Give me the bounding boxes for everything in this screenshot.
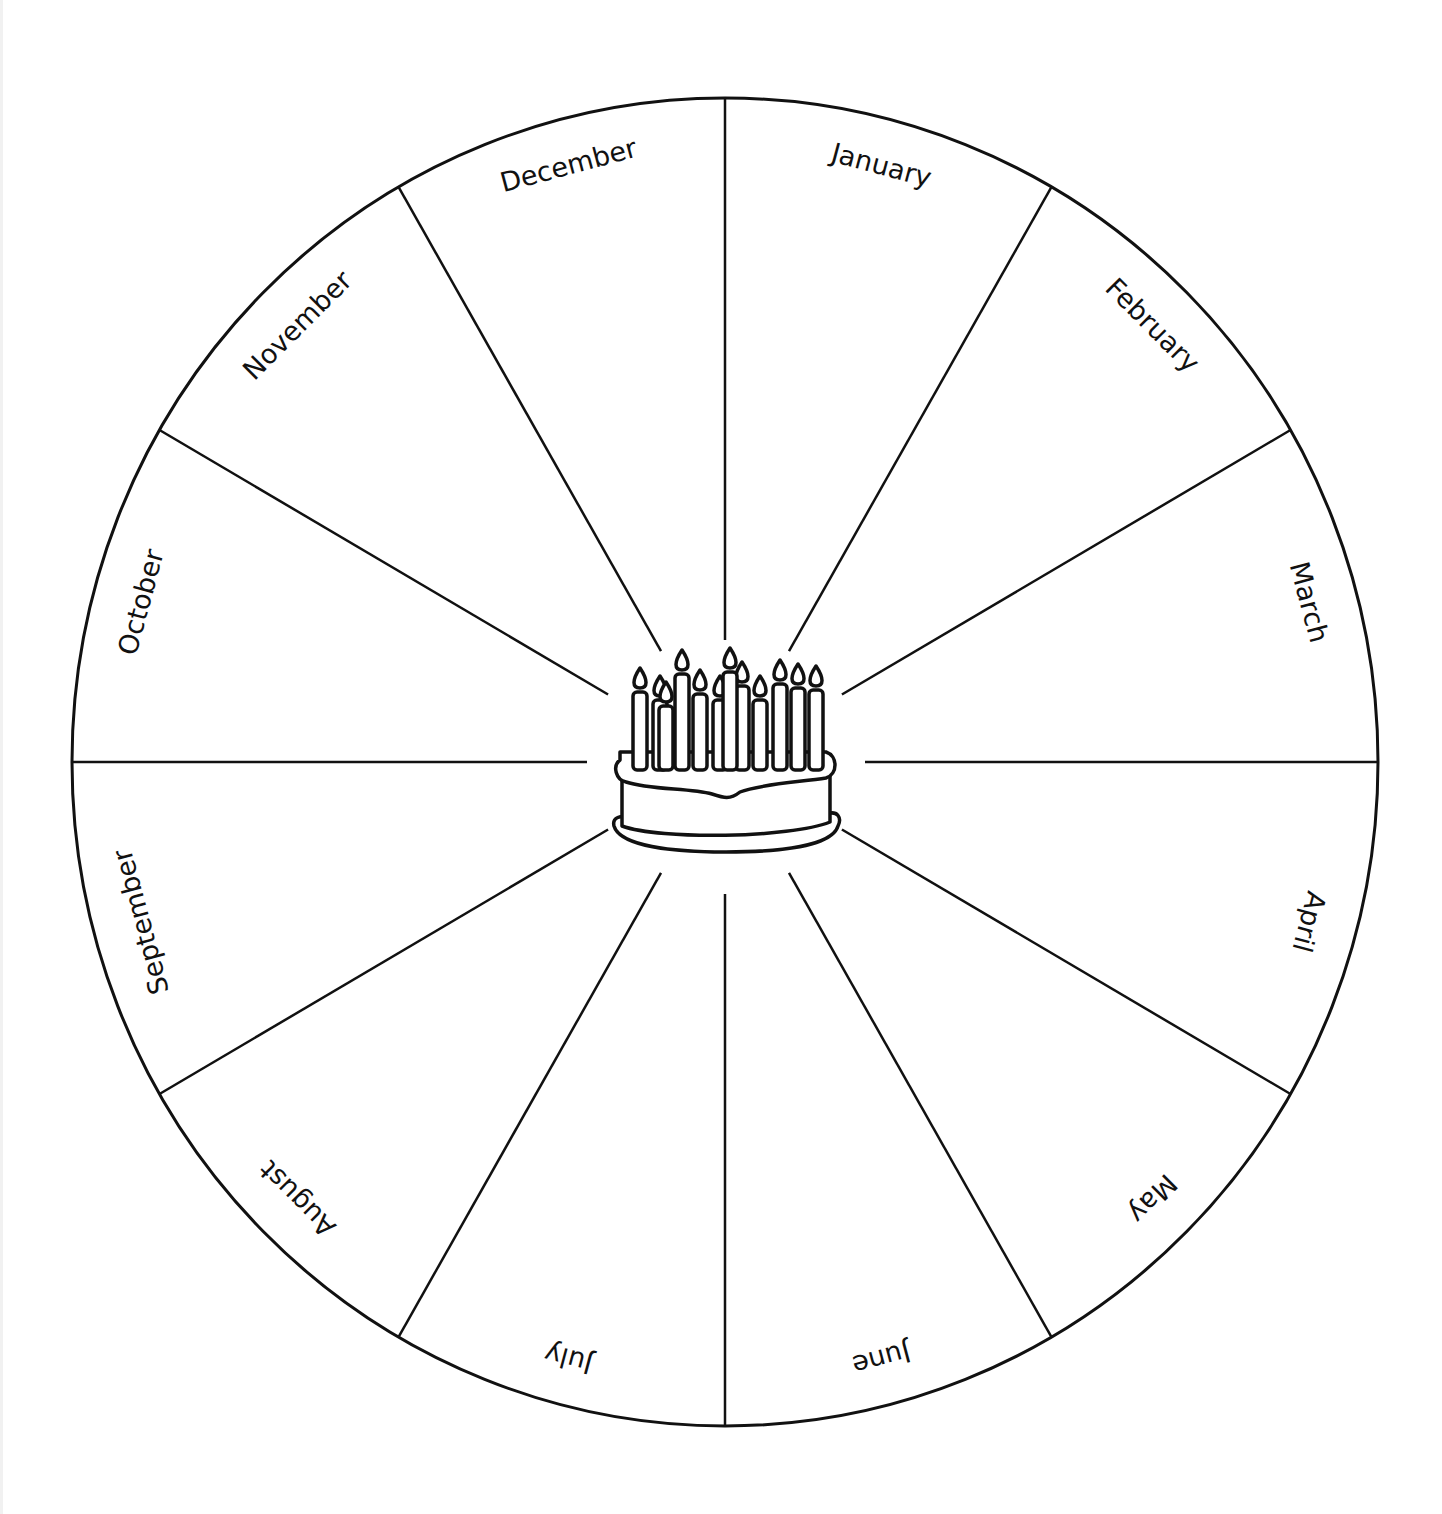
candle-flame-icon bbox=[694, 670, 706, 690]
candle bbox=[693, 670, 707, 770]
month-label-march: March bbox=[1284, 558, 1335, 646]
wheel-spoke bbox=[159, 430, 608, 695]
birthday-wheel: JanuaryFebruaryMarchAprilMayJuneJulyAugu… bbox=[0, 0, 1442, 1514]
month-label-august: August bbox=[253, 1155, 342, 1244]
month-label-december: December bbox=[497, 132, 641, 198]
candle-flame-icon bbox=[676, 650, 688, 670]
wheel-spoke bbox=[789, 187, 1052, 651]
month-label-february: February bbox=[1100, 272, 1207, 379]
candle-flame-icon bbox=[634, 668, 646, 688]
month-label-july: July bbox=[541, 1338, 598, 1381]
candle-flame-icon bbox=[774, 660, 786, 680]
candle bbox=[633, 668, 647, 770]
cake-candles bbox=[633, 648, 823, 770]
month-label-june: June bbox=[849, 1336, 916, 1382]
candle bbox=[659, 682, 673, 770]
wheel-spoke bbox=[842, 430, 1291, 695]
candle bbox=[773, 660, 787, 770]
wheel-spoke bbox=[399, 187, 662, 651]
candle-flame-icon bbox=[810, 666, 822, 686]
month-label-october: October bbox=[112, 545, 170, 658]
month-label-may: May bbox=[1122, 1168, 1183, 1229]
month-label-november: November bbox=[237, 264, 359, 386]
candle-flame-icon bbox=[724, 648, 736, 668]
candle-flame-icon bbox=[754, 676, 766, 696]
month-label-april: April bbox=[1286, 888, 1332, 956]
candle-flame-icon bbox=[792, 664, 804, 684]
wheel-spoke bbox=[399, 873, 662, 1337]
birthday-cake-icon bbox=[614, 648, 840, 852]
candle bbox=[723, 648, 737, 770]
candle bbox=[675, 650, 689, 770]
month-label-january: January bbox=[826, 136, 935, 193]
candle bbox=[791, 664, 805, 770]
wheel-spoke bbox=[789, 873, 1052, 1337]
month-label-september: September bbox=[106, 845, 175, 998]
candle bbox=[809, 666, 823, 770]
candle bbox=[753, 676, 767, 770]
wheel-spoke bbox=[842, 830, 1291, 1095]
wheel-spoke bbox=[159, 830, 608, 1095]
